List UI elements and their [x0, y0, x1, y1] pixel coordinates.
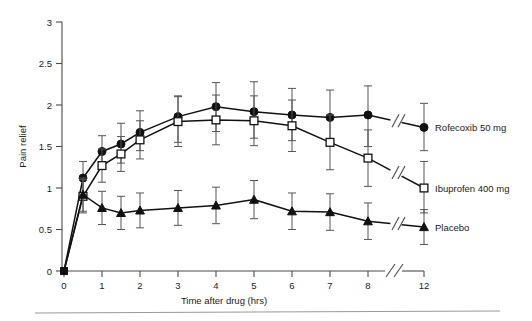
pain-relief-chart: 00.511.522.53Pain relief01234567812Time … — [0, 0, 532, 321]
data-point-square — [420, 184, 428, 192]
y-tick-label: 0 — [47, 266, 52, 277]
series-1: Rofecoxib 50 mg — [61, 82, 506, 274]
data-point-origin — [61, 268, 67, 274]
series-break-mark — [398, 114, 405, 127]
data-point-square — [288, 122, 296, 130]
data-point-square — [117, 150, 125, 158]
data-point-square — [98, 162, 106, 170]
x-tick-label: 5 — [251, 280, 256, 291]
data-point-square — [174, 118, 182, 126]
x-tick-label: 4 — [213, 280, 218, 291]
series-break-mark — [392, 114, 399, 127]
x-tick-label: 12 — [419, 280, 430, 291]
footer-rule — [35, 311, 500, 313]
y-tick-label: 1 — [47, 183, 52, 194]
data-point-square — [364, 154, 372, 162]
x-tick-label: 6 — [289, 280, 294, 291]
x-tick-label: 8 — [365, 280, 370, 291]
data-point-circle — [364, 111, 372, 119]
x-tick-label: 2 — [137, 280, 142, 291]
y-tick-label: 0.5 — [39, 224, 52, 235]
series-3: Placebo — [61, 178, 470, 274]
series-break-mark — [392, 166, 399, 179]
y-tick-label: 2 — [47, 100, 52, 111]
data-point-square — [250, 117, 258, 125]
y-tick-label: 1.5 — [39, 141, 52, 152]
x-tick-label: 0 — [61, 280, 66, 291]
y-axis-label: Pain relief — [17, 125, 28, 168]
series-break-mark — [392, 217, 399, 230]
x-tick-label: 7 — [327, 280, 332, 291]
y-tick-label: 2.5 — [39, 58, 52, 69]
y-tick-label: 3 — [47, 17, 52, 28]
series-label: Rofecoxib 50 mg — [435, 122, 506, 133]
data-point-square — [136, 136, 144, 144]
data-point-square — [212, 116, 220, 124]
series-line-break-right — [402, 225, 424, 227]
axis-break-mark — [394, 264, 403, 277]
series-label: Ibuprofen 400 mg — [435, 183, 509, 194]
x-tick-label: 3 — [175, 280, 180, 291]
axis-break-mark — [386, 264, 395, 277]
data-point-triangle — [250, 195, 259, 203]
series-break-mark — [398, 217, 405, 230]
data-point-circle — [420, 123, 428, 131]
data-point-triangle — [98, 204, 107, 212]
x-tick-label: 1 — [99, 280, 104, 291]
series-label: Placebo — [435, 222, 469, 233]
data-point-square — [326, 138, 334, 146]
x-axis-label: Time after drug (hrs) — [181, 295, 267, 306]
